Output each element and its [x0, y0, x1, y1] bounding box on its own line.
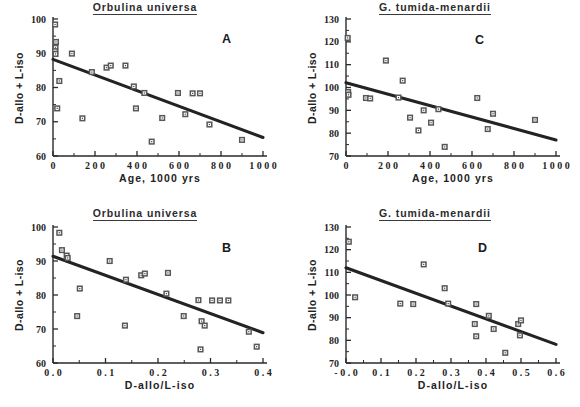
data-point-center [141, 275, 142, 276]
data-point-center [347, 37, 348, 38]
data-point-center [444, 288, 445, 289]
data-point-center [423, 264, 424, 265]
x-tick-label: 0 . 2 [149, 367, 167, 378]
data-point-center [71, 53, 72, 54]
data-point-center [135, 108, 136, 109]
data-point-center [348, 94, 349, 95]
x-tick-label: 8 0 0 [504, 160, 524, 171]
data-point-center [370, 98, 371, 99]
data-point-center [413, 303, 414, 304]
data-point-center [167, 272, 168, 273]
x-tick-label: 4 0 0 [420, 160, 440, 171]
data-point-center [106, 67, 107, 68]
x-tick-label: 0 . 3 [442, 367, 460, 378]
data-point-center [520, 320, 521, 321]
y-tick-label: 120 [324, 244, 339, 255]
x-tick-label: 0 . 4 [477, 367, 495, 378]
y-tick-label: 90 [329, 105, 339, 116]
panel-c: G. tumida-menardii D-allo + L-iso Age, 1… [290, 0, 580, 203]
y-tick-label: 70 [36, 116, 46, 127]
data-point-center [385, 60, 386, 61]
data-point-center [55, 24, 56, 25]
data-point-center [124, 325, 125, 326]
y-tick-label: 70 [329, 151, 339, 162]
data-point-center [185, 114, 186, 115]
data-point-center [400, 303, 401, 304]
data-point-center [448, 303, 449, 304]
y-tick-label: 100 [324, 290, 339, 301]
data-point-center [79, 288, 80, 289]
data-point-center [476, 303, 477, 304]
data-point-center [409, 117, 410, 118]
data-point-center [256, 346, 257, 347]
x-tick-label: 0 [344, 160, 349, 171]
y-tick-label: 110 [325, 267, 339, 278]
data-point-center [444, 146, 445, 147]
data-point-center [204, 325, 205, 326]
y-tick-label: 70 [36, 324, 46, 335]
data-point-center [133, 86, 134, 87]
data-point-center [348, 241, 349, 242]
data-point-center [151, 141, 152, 142]
data-point-center [198, 300, 199, 301]
x-tick-label: 1 0 0 0 [542, 160, 570, 171]
data-point-center [423, 110, 424, 111]
data-point-center [211, 300, 212, 301]
data-point-center [492, 113, 493, 114]
panel-a-plot: 6070809010002 0 04 0 06 0 08 0 01 0 0 0 [0, 0, 290, 203]
data-point-center [59, 232, 60, 233]
data-point-center [418, 130, 419, 131]
regression-line [53, 59, 263, 137]
x-tick-label: 8 0 0 [211, 160, 231, 171]
panel-b-plot: 607080901000 . 00 . 10 . 20 . 30 . 4 [0, 203, 290, 407]
data-point-center [166, 293, 167, 294]
data-point-center [518, 323, 519, 324]
data-point-center [534, 119, 535, 120]
y-tick-label: 90 [329, 312, 339, 323]
data-point-center [477, 97, 478, 98]
y-tick-label: 100 [31, 222, 46, 233]
x-tick-label: 0 . 6 [547, 367, 565, 378]
data-point-center [241, 139, 242, 140]
data-point-center [200, 349, 201, 350]
data-point-center [402, 80, 403, 81]
data-point-center [248, 331, 249, 332]
data-point-center [438, 109, 439, 110]
x-tick-label: 6 0 0 [462, 160, 482, 171]
data-point-center [77, 315, 78, 316]
data-point-center [55, 41, 56, 42]
panel-a: Orbulina universa D-allo + L-iso Age, 10… [0, 0, 290, 203]
y-tick-label: 130 [324, 222, 339, 233]
data-point-center [519, 335, 520, 336]
regression-line [346, 83, 556, 140]
data-point-center [57, 108, 58, 109]
y-tick-label: 80 [36, 82, 46, 93]
data-point-center [162, 117, 163, 118]
data-point-center [192, 93, 193, 94]
data-point-center [487, 128, 488, 129]
data-point-center [355, 297, 356, 298]
x-tick-label: 6 0 0 [169, 160, 189, 171]
x-tick-label: 0 . 3 [202, 367, 220, 378]
data-point-center [398, 97, 399, 98]
data-point-center [476, 336, 477, 337]
x-tick-label: 2 0 0 [85, 160, 105, 171]
data-point-center [183, 315, 184, 316]
x-tick-label: 0 . 5 [512, 367, 530, 378]
data-point-center [125, 65, 126, 66]
data-point-center [144, 273, 145, 274]
data-point-center [488, 315, 489, 316]
y-tick-label: 120 [324, 36, 339, 47]
data-point-center [59, 80, 60, 81]
x-tick-label: - 0 . 0 [334, 367, 357, 378]
data-point-center [91, 71, 92, 72]
x-tick-label: 0 . 0 [44, 367, 62, 378]
y-tick-label: 80 [36, 290, 46, 301]
y-tick-label: 80 [329, 335, 339, 346]
data-point-center [201, 321, 202, 322]
data-point-center [228, 300, 229, 301]
data-point-center [61, 250, 62, 251]
x-tick-label: 0 . 1 [97, 367, 115, 378]
data-point-center [110, 65, 111, 66]
data-point-center [493, 328, 494, 329]
